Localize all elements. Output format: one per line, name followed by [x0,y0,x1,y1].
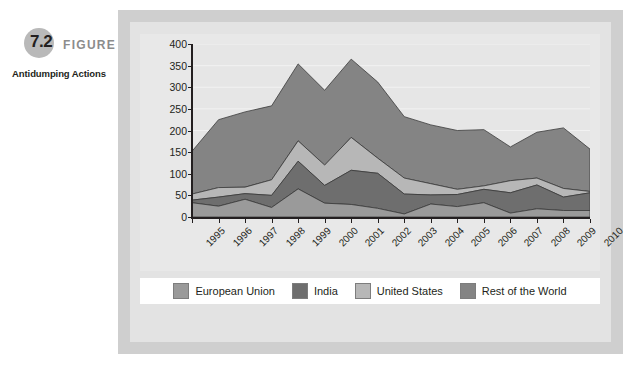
figure-word-label: FIGURE [63,38,116,52]
y-axis-tick-mark [188,131,192,132]
legend-swatch-icon [173,283,189,299]
x-axis-tick-label: 1996 [230,225,254,249]
x-axis-tick-label: 1998 [283,225,307,249]
x-axis-tick-mark [431,219,432,223]
x-axis-tick-label: 1999 [310,225,334,249]
legend-item[interactable]: Rest of the World [460,283,567,299]
y-axis-tick-label: 150 [169,146,187,158]
legend-label: European Union [195,285,275,297]
x-axis-tick-label: 2009 [575,225,599,249]
x-axis-tick-mark [484,219,485,223]
stacked-area-chart [192,44,590,217]
x-axis-tick-label: 2003 [416,225,440,249]
x-axis-tick-mark [245,219,246,223]
x-axis-tick-label: 2000 [336,225,360,249]
x-axis-tick-label: 2005 [469,225,493,249]
y-axis-tick-mark [188,44,192,45]
y-axis-tick-label: 250 [169,103,187,115]
x-axis-tick-label: 1997 [257,225,281,249]
legend-swatch-icon [460,283,476,299]
x-axis-tick-mark [510,219,511,223]
x-axis-tick-label: 2010 [602,225,626,249]
x-axis-tick-label: 2004 [442,225,466,249]
x-axis-tick-mark [537,219,538,223]
y-axis-tick-mark [188,217,192,218]
figure-badge: 7.2 FIGURE [0,28,118,62]
x-axis-line [191,217,590,219]
legend-label: Rest of the World [482,285,567,297]
y-axis-tick-label: 400 [169,38,187,50]
legend-item[interactable]: India [292,283,338,299]
y-axis-tick-label: 300 [169,81,187,93]
legend-swatch-icon [355,283,371,299]
y-axis-tick-mark [188,195,192,196]
x-axis-tick-mark [378,219,379,223]
y-axis-tick-label: 200 [169,125,187,137]
x-axis-tick-mark [219,219,220,223]
x-axis-tick-label: 2006 [495,225,519,249]
plot-area: 050100150200250300350400 199519961997199… [192,44,590,217]
x-axis-tick-label: 1995 [204,225,228,249]
x-axis-tick-label: 2001 [363,225,387,249]
y-axis-tick-mark [188,174,192,175]
y-axis-tick-mark [188,66,192,67]
chart-legend: European UnionIndiaUnited StatesRest of … [140,278,600,304]
chart-card: 050100150200250300350400 199519961997199… [140,34,600,271]
y-axis-tick-label: 0 [181,211,187,223]
figure-caption-block: 7.2 FIGURE Antidumping Actions [0,28,118,79]
figure-title: Antidumping Actions [0,68,118,79]
y-axis-tick-mark [188,152,192,153]
y-axis-tick-mark [188,87,192,88]
x-axis-tick-mark [272,219,273,223]
legend-swatch-icon [292,283,308,299]
x-axis-tick-label: 2007 [522,225,546,249]
x-axis-tick-label: 2002 [389,225,413,249]
y-axis-tick-label: 350 [169,60,187,72]
x-axis-tick-mark [192,219,193,223]
x-axis-tick-mark [563,219,564,223]
x-axis-tick-mark [404,219,405,223]
x-axis-tick-mark [298,219,299,223]
figure-inner-panel: 050100150200250300350400 199519961997199… [130,22,611,342]
legend-item[interactable]: United States [355,283,443,299]
legend-label: United States [377,285,443,297]
y-axis-tick-label: 50 [175,189,187,201]
figure-outer-panel: 050100150200250300350400 199519961997199… [118,10,623,354]
y-axis-tick-mark [188,109,192,110]
figure-number: 7.2 [30,32,52,52]
x-axis-tick-mark [325,219,326,223]
x-axis-tick-mark [590,219,591,223]
y-axis-tick-label: 100 [169,168,187,180]
x-axis-tick-mark [351,219,352,223]
x-axis-tick-label: 2008 [548,225,572,249]
legend-label: India [314,285,338,297]
legend-item[interactable]: European Union [173,283,275,299]
x-axis-tick-mark [457,219,458,223]
